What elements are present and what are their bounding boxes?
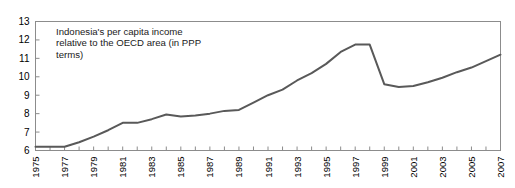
x-axis-tick-label: 1983 — [146, 157, 157, 178]
y-axis-tick-label: 13 — [18, 16, 30, 27]
chart-annotation-text: Indonesia's per capita income relative t… — [56, 26, 208, 60]
y-axis-tick-label: 10 — [18, 71, 30, 82]
y-axis-tick-label: 7 — [24, 127, 30, 138]
x-axis-tick-label: 1977 — [59, 157, 70, 178]
x-axis-tick-label: 1999 — [379, 157, 390, 178]
x-axis-tick-label: 2001 — [408, 157, 419, 178]
y-axis-tick-label: 9 — [24, 90, 30, 101]
x-axis-tick-label: 1987 — [204, 157, 215, 178]
x-axis-tick-label: 2003 — [437, 157, 448, 178]
y-axis-tick-label: 12 — [18, 34, 30, 45]
x-axis-tick-label: 1989 — [233, 157, 244, 178]
x-axis-tick-label: 2007 — [495, 157, 506, 178]
x-axis-tick-label: 1997 — [350, 157, 361, 178]
y-axis-tick-label: 6 — [24, 145, 30, 156]
y-axis-tick-label: 8 — [24, 108, 30, 119]
x-axis-tick-label: 1975 — [30, 157, 41, 178]
chart-container: 678910111213 197519771979198119831985198… — [0, 0, 515, 188]
y-axis-labels: 678910111213 — [18, 16, 30, 156]
x-axis-tick-label: 1979 — [88, 157, 99, 178]
y-axis-tick-label: 11 — [19, 53, 30, 64]
x-axis-tick-label: 1995 — [321, 157, 332, 178]
x-axis-tick-label: 1991 — [263, 157, 274, 178]
x-axis-labels: 1975197719791981198319851987198919911993… — [30, 157, 506, 178]
x-axis-tick-label: 1985 — [175, 157, 186, 178]
x-axis-tick-label: 2005 — [466, 157, 477, 178]
x-axis-tick-label: 1981 — [117, 157, 128, 178]
x-axis-tick-label: 1993 — [292, 157, 303, 178]
